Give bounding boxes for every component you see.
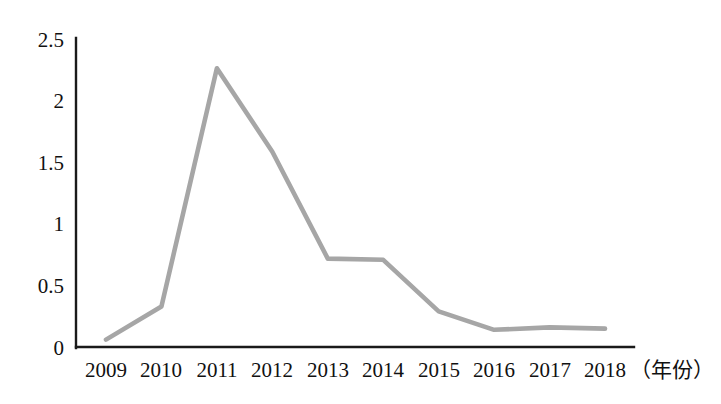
- x-tick-label-2009: 2009: [85, 358, 127, 382]
- y-tick-label-2: 2: [54, 89, 65, 113]
- x-tick-label-2012: 2012: [251, 358, 293, 382]
- x-tick-label-2011: 2011: [196, 358, 237, 382]
- x-tick-label-2018: 2018: [584, 358, 626, 382]
- x-tick-label-2013: 2013: [307, 358, 349, 382]
- x-tick-label-2016: 2016: [473, 358, 515, 382]
- y-tick-label-0: 0: [54, 336, 65, 360]
- x-tick-label-2014: 2014: [362, 358, 405, 382]
- x-tick-label-2017: 2017: [529, 358, 571, 382]
- y-tick-label-0.5: 0.5: [38, 274, 64, 298]
- y-tick-label-2.5: 2.5: [38, 28, 64, 52]
- x-tick-label-2015: 2015: [418, 358, 460, 382]
- y-tick-label-1.5: 1.5: [38, 151, 64, 175]
- x-axis-unit-caption: （年份）: [630, 358, 714, 382]
- data-series-line: [106, 68, 605, 339]
- line-chart-plot: 2.5 2 1.5 1 0.5 0 2009 2010 2011 2012 20…: [0, 0, 721, 404]
- x-tick-label-2010: 2010: [140, 358, 182, 382]
- y-tick-label-1: 1: [54, 212, 65, 236]
- chart-container: 2.5 2 1.5 1 0.5 0 2009 2010 2011 2012 20…: [0, 0, 721, 404]
